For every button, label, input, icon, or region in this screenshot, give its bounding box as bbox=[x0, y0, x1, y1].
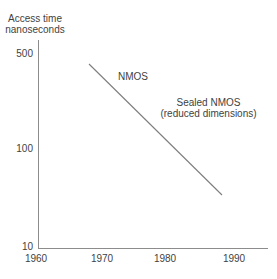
access-time-chart: Access time nanoseconds 500 100 10 1960 … bbox=[0, 0, 277, 279]
nmos-label: NMOS bbox=[118, 71, 148, 82]
sealed-nmos-label-line1: Sealed NMOS bbox=[160, 97, 257, 108]
sealed-nmos-label-line2: (reduced dimensions) bbox=[160, 108, 257, 119]
sealed-nmos-label: Sealed NMOS (reduced dimensions) bbox=[160, 97, 257, 119]
nmos-trend-line bbox=[0, 0, 277, 279]
